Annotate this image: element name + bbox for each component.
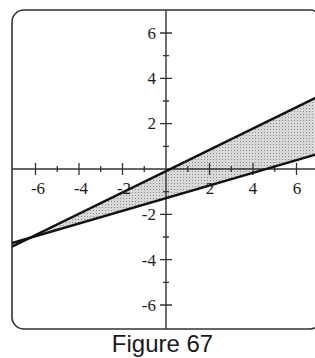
svg-text:-4: -4 [142, 251, 157, 270]
svg-text:2: 2 [206, 179, 215, 198]
figure-caption: Figure 67 [0, 330, 315, 358]
svg-text:6: 6 [148, 24, 157, 43]
svg-text:-2: -2 [142, 205, 156, 224]
svg-text:-6: -6 [31, 179, 45, 198]
svg-text:-4: -4 [74, 179, 89, 198]
svg-text:6: 6 [293, 179, 302, 198]
svg-text:2: 2 [148, 114, 157, 133]
svg-text:-6: -6 [142, 296, 156, 315]
svg-text:-2: -2 [117, 179, 131, 198]
svg-text:4: 4 [249, 179, 258, 198]
svg-text:4: 4 [148, 69, 157, 88]
